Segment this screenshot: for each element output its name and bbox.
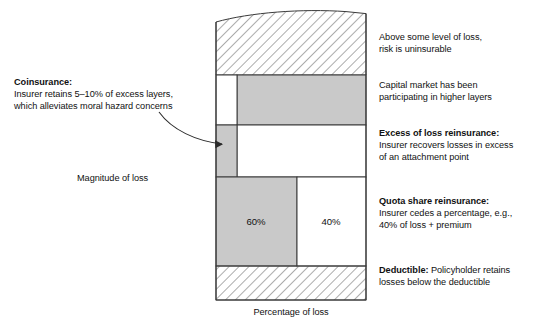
band-uninsurable — [216, 11, 366, 75]
band-capital-market — [237, 75, 366, 125]
annotation-deductible: Deductible: Policyholder retains losses … — [379, 264, 547, 288]
y-axis-label: Magnitude of loss — [77, 172, 217, 184]
annotation-capital-market-body: Capital market has been participating in… — [379, 80, 492, 102]
annotation-excess-of-loss: Excess of loss reinsurance:Insurer recov… — [379, 127, 547, 164]
label-60-percent: 60% — [246, 216, 266, 227]
band-excess-of-loss — [237, 125, 366, 177]
x-axis-label: Percentage of loss — [216, 306, 366, 318]
band-coinsurance-upper — [216, 75, 237, 125]
figure-canvas: 60% 40% Coinsurance:Insurer retains 5–10… — [0, 0, 550, 333]
annotation-deductible-title: Deductible: — [379, 265, 428, 275]
annotation-quota-share-body: Insurer cedes a percentage, e.g., 40% of… — [379, 208, 512, 230]
coinsurance-leader-arrow — [159, 112, 223, 148]
annotation-excess-of-loss-body: Insurer recovers losses in excess of an … — [379, 140, 513, 162]
band-coinsurance-lower — [216, 125, 237, 177]
annotation-coinsurance-title: Coinsurance: — [14, 77, 72, 87]
annotation-coinsurance-body: Insurer retains 5–10% of excess layers, … — [14, 89, 173, 111]
label-40-percent: 40% — [321, 216, 341, 227]
annotation-capital-market: Capital market has been participating in… — [379, 79, 547, 103]
band-deductible — [216, 266, 366, 300]
annotation-quota-share: Quota share reinsurance:Insurer cedes a … — [379, 195, 547, 232]
annotation-quota-share-title: Quota share reinsurance: — [379, 196, 489, 206]
annotation-uninsurable: Above some level of loss, risk is uninsu… — [379, 31, 547, 55]
annotation-coinsurance: Coinsurance:Insurer retains 5–10% of exc… — [14, 76, 219, 113]
annotation-uninsurable-body: Above some level of loss, risk is uninsu… — [379, 32, 482, 54]
annotation-excess-of-loss-title: Excess of loss reinsurance: — [379, 128, 499, 138]
